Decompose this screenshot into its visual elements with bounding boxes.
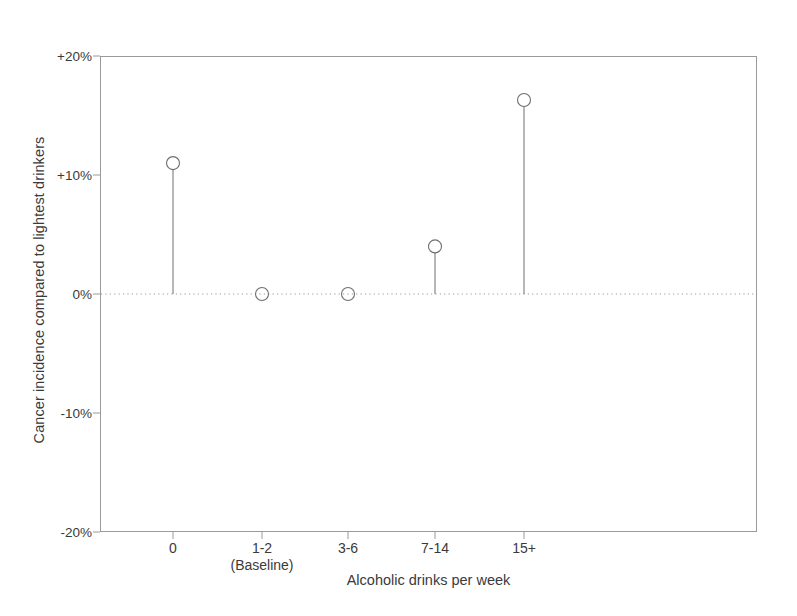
- x-axis-title: Alcoholic drinks per week: [100, 572, 757, 588]
- y-tick-label: +10%: [22, 168, 92, 183]
- y-tick-label: 0%: [22, 287, 92, 302]
- y-tick-label: -10%: [22, 406, 92, 421]
- x-tick-label: 15+: [454, 540, 594, 557]
- y-tick-label: +20%: [22, 49, 92, 64]
- plot-area-frame: [100, 56, 757, 532]
- chart-figure: Cancer incidence compared to lightest dr…: [0, 0, 797, 616]
- y-tick-label: -20%: [22, 525, 92, 540]
